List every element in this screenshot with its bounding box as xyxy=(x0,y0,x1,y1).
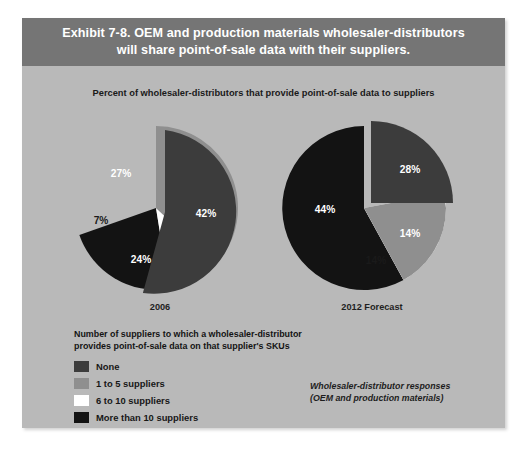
legend-title-line-2: provides point-of-sale data on that supp… xyxy=(74,340,374,352)
pie-svg-2012: 28% 14% 14% 44% xyxy=(272,116,472,304)
legend-label-6-to-10-suppliers: 6 to 10 suppliers xyxy=(96,395,170,406)
slice-none xyxy=(371,121,453,203)
legend-swatch-none xyxy=(74,361,89,372)
pie-chart-2012-forecast: 28% 14% 14% 44% 2012 Forecast xyxy=(272,116,472,304)
slice-label-more-than-10-2006: 27% xyxy=(111,168,131,179)
legend-title-line-1: Number of suppliers to which a wholesale… xyxy=(74,328,374,340)
slice-label-none-2006: 42% xyxy=(196,208,216,219)
pie-canvas-2012: 28% 14% 14% 44% xyxy=(272,116,472,304)
slice-label-1-to-5-2006: 24% xyxy=(131,254,151,265)
slice-label-6-to-10-2006: 7% xyxy=(94,215,109,226)
pie-year-label-2006: 2006 xyxy=(60,302,260,312)
legend: Number of suppliers to which a wholesale… xyxy=(74,328,374,426)
exhibit-panel: Exhibit 7-8. OEM and production material… xyxy=(22,18,505,428)
slice-none-group xyxy=(371,121,453,203)
slice-label-1-to-5-2012: 14% xyxy=(400,228,420,239)
source-note: Wholesaler-distributor responses (OEM an… xyxy=(310,381,500,404)
legend-label-none: None xyxy=(96,361,119,372)
pie-year-label-2012: 2012 Forecast xyxy=(272,302,472,312)
slice-label-more-than-10-2012: 44% xyxy=(315,204,335,215)
legend-swatch-6-to-10-suppliers xyxy=(74,395,89,406)
source-note-line-2: (OEM and production materials) xyxy=(310,393,500,405)
legend-item-none: None xyxy=(74,358,374,374)
pie-chart-2006: 42% 24% 7% 27% 2006 xyxy=(60,116,260,304)
pie-svg-2006: 42% 24% 7% 27% xyxy=(60,116,260,304)
pie-canvas-2006: 42% 24% 7% 27% xyxy=(60,116,260,304)
page-title: Exhibit 7-8. OEM and production material… xyxy=(48,25,479,59)
slice-label-none-2012: 28% xyxy=(400,164,420,175)
exhibit-title-band: Exhibit 7-8. OEM and production material… xyxy=(22,18,505,66)
source-note-line-1: Wholesaler-distributor responses xyxy=(310,381,500,393)
exhibit-title-line-2: will share point-of-sale data with their… xyxy=(62,42,465,59)
exhibit-title-line-1: Exhibit 7-8. OEM and production material… xyxy=(62,25,465,42)
legend-item-more-than-10-suppliers: More than 10 suppliers xyxy=(74,409,374,425)
legend-swatch-more-than-10-suppliers xyxy=(74,412,89,423)
slice-label-6-to-10-2012: 14% xyxy=(366,255,386,266)
legend-swatch-1-to-5-suppliers xyxy=(74,378,89,389)
legend-label-more-than-10-suppliers: More than 10 suppliers xyxy=(96,412,198,423)
legend-label-1-to-5-suppliers: 1 to 5 suppliers xyxy=(96,378,165,389)
legend-title: Number of suppliers to which a wholesale… xyxy=(74,328,374,352)
chart-subtitle: Percent of wholesaler-distributors that … xyxy=(22,88,505,98)
